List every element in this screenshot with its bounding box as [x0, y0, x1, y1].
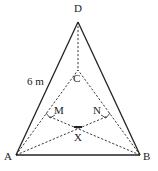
label-A: A [4, 150, 12, 162]
edge-label-AD: 6 m [27, 75, 44, 87]
label-N: N [93, 104, 101, 116]
label-B: B [143, 150, 150, 162]
label-D: D [74, 2, 82, 14]
label-M: M [54, 104, 64, 116]
right-angle-mark-N [101, 113, 110, 118]
edge-AD [16, 22, 78, 155]
label-C: C [73, 72, 80, 84]
tetrahedron-diagram: D C A B M N X 6 m [0, 0, 158, 171]
edge-BD [78, 22, 140, 155]
label-X: X [74, 131, 82, 143]
